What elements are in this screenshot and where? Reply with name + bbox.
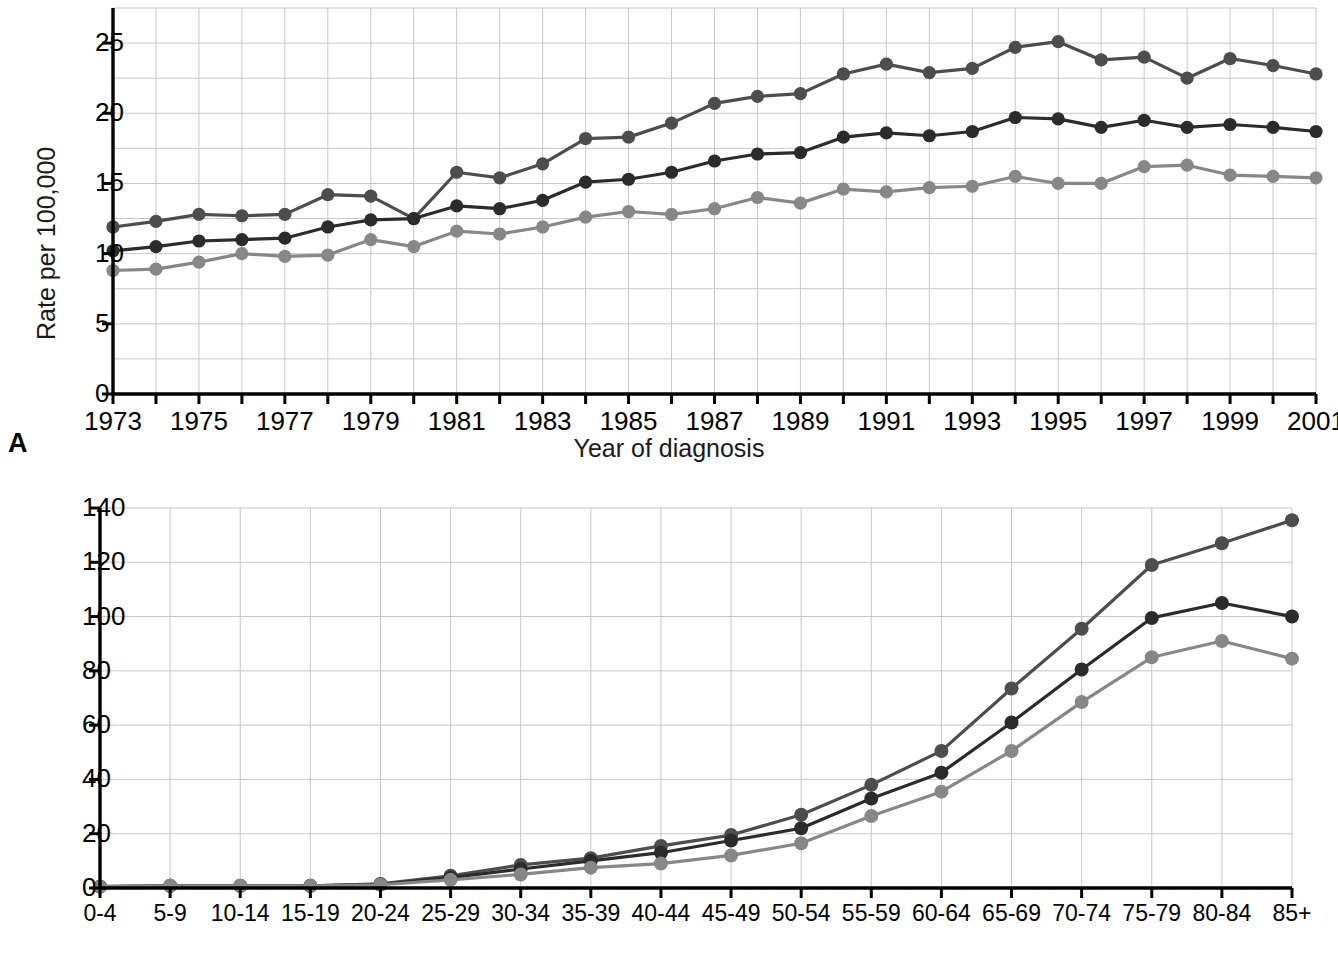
panel-a-xtick-1981: 1981	[428, 408, 486, 434]
panel-a-xtick-1999: 1999	[1201, 408, 1259, 434]
panel-a-xtick-1995: 1995	[1029, 408, 1087, 434]
panel-b-xtick-20-24: 20-24	[351, 902, 410, 925]
panel-b-xtick-55-59: 55-59	[842, 902, 901, 925]
panel-a-xtick-1989: 1989	[772, 408, 830, 434]
panel-b-plot	[0, 478, 1338, 968]
panel-b-xtick-65-69: 65-69	[982, 902, 1041, 925]
panel-b-xtick-5-9: 5-9	[153, 902, 186, 925]
panel-a-xtick-1973: 1973	[84, 408, 142, 434]
panel-a-xtick-1985: 1985	[600, 408, 658, 434]
panel-b-xtick-75-79: 75-79	[1122, 902, 1181, 925]
panel-b: B Rate per 100,000 Age at diagnosis 0204…	[0, 478, 1338, 968]
panel-a-xtick-1979: 1979	[342, 408, 400, 434]
panel-b-xtick-45-49: 45-49	[702, 902, 761, 925]
panel-b-xtick-25-29: 25-29	[421, 902, 480, 925]
panel-a-y-axis-label: Rate per 100,000	[32, 147, 61, 340]
panel-a-xtick-1991: 1991	[857, 408, 915, 434]
panel-a-xtick-1987: 1987	[686, 408, 744, 434]
panel-b-xtick-80-84: 80-84	[1192, 902, 1251, 925]
panel-b-xtick-10-14: 10-14	[211, 902, 270, 925]
panel-a-xtick-2001: 2001	[1287, 408, 1338, 434]
panel-a-x-axis-label: Year of diagnosis	[0, 434, 1338, 463]
panel-b-xtick-15-19: 15-19	[281, 902, 340, 925]
panel-a-xtick-1983: 1983	[514, 408, 572, 434]
panel-b-xtick-35-39: 35-39	[561, 902, 620, 925]
panel-b-xtick-0-4: 0-4	[83, 902, 116, 925]
panel-b-xtick-70-74: 70-74	[1052, 902, 1111, 925]
panel-b-xtick-30-34: 30-34	[491, 902, 550, 925]
panel-a-xtick-1997: 1997	[1115, 408, 1173, 434]
panel-a: A Rate per 100,000 Year of diagnosis 051…	[0, 0, 1338, 478]
panel-b-xtick-50-54: 50-54	[772, 902, 831, 925]
figure-container: A Rate per 100,000 Year of diagnosis 051…	[0, 0, 1338, 968]
panel-a-xtick-1977: 1977	[256, 408, 314, 434]
panel-b-xtick-85+: 85+	[1272, 902, 1311, 925]
panel-a-xtick-1975: 1975	[170, 408, 228, 434]
panel-b-xtick-60-64: 60-64	[912, 902, 971, 925]
panel-a-xtick-1993: 1993	[943, 408, 1001, 434]
panel-b-xtick-40-44: 40-44	[632, 902, 691, 925]
